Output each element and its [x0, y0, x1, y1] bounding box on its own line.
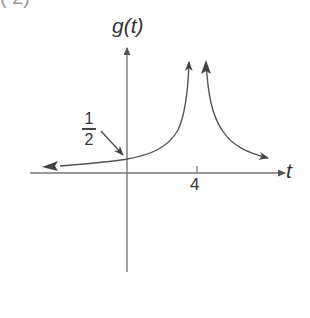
- fraction-bar: [82, 128, 96, 130]
- x-tick-label-4: 4: [190, 175, 199, 195]
- graph-figure: ( 2) g(t) t 4 1: [0, 0, 310, 318]
- curve-left-branch: [60, 62, 189, 166]
- intercept-fraction-label: 1 2: [82, 110, 96, 148]
- x-axis: [30, 166, 285, 173]
- y-axis-label: g(t): [112, 14, 144, 38]
- x-axis-label: t: [286, 159, 292, 183]
- intercept-pointer: [101, 131, 123, 155]
- arrowhead-left: [42, 161, 58, 171]
- curve-right-branch: [206, 62, 268, 158]
- graph-canvas: [0, 0, 310, 318]
- fraction-denominator: 2: [82, 131, 96, 148]
- arrowhead-right-top: [201, 60, 211, 74]
- fraction-numerator: 1: [82, 110, 96, 127]
